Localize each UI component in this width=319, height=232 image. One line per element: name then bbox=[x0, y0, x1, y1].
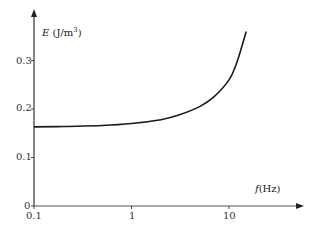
x-tick-label: 1 bbox=[129, 210, 135, 221]
y-tick-label: 0.3 bbox=[16, 55, 32, 66]
x-tick-label: 0.1 bbox=[26, 210, 42, 221]
y-tick-label: 0.2 bbox=[16, 102, 32, 113]
y-axis-label: E (J/m3) bbox=[42, 26, 82, 38]
y-tick-label: 0.1 bbox=[16, 151, 32, 162]
x-axis-arrow-icon bbox=[296, 203, 304, 209]
y-axis-arrow-icon bbox=[31, 9, 37, 17]
x-axis-label: f(Hz) bbox=[255, 183, 281, 194]
x-tick-label: 10 bbox=[223, 210, 236, 221]
chart: E (J/m3) f(Hz) 0.3 0.2 0.1 0 0.1 1 10 bbox=[0, 0, 319, 232]
ticks bbox=[31, 61, 229, 210]
data-curve bbox=[34, 31, 246, 127]
